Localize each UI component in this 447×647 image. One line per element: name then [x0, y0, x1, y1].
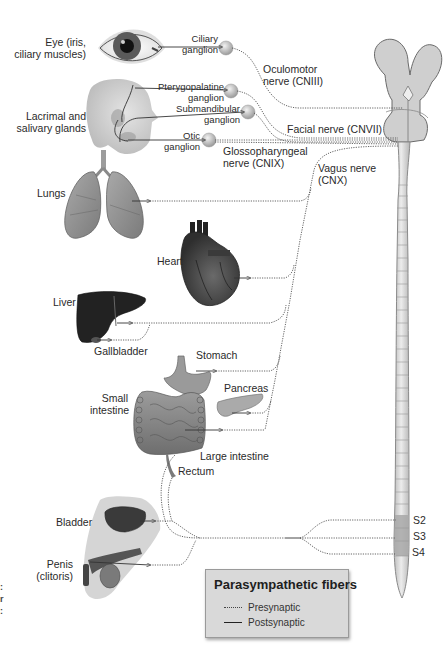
label-ciliary-line2: ganglion	[170, 44, 218, 55]
label-segment-s2: S2	[413, 514, 426, 526]
legend-item-postsynaptic: Postsynaptic	[224, 617, 305, 628]
ciliary-ganglion	[219, 41, 233, 55]
legend-box: Parasympathetic fibers Presynaptic Posts…	[205, 569, 349, 638]
label-vagus-nerve: Vagus nerve (CNX)	[318, 162, 376, 186]
label-oculomotor-nerve: Oculomotor nerve (CNIII)	[263, 63, 323, 87]
label-gallbladder: Gallbladder	[94, 345, 148, 357]
label-submandibular-line1: Submandibular	[170, 103, 240, 114]
label-penis-line2: (clitoris)	[28, 570, 73, 582]
label-pterygopalatine-ganglion: Pterygopalatine ganglion	[150, 81, 224, 103]
pelvis-illustration	[83, 496, 160, 599]
label-oculomotor-line1: Oculomotor	[263, 63, 323, 75]
label-penis-line1: Penis	[28, 558, 73, 570]
stomach-illustration	[164, 356, 211, 395]
label-small-intestine: Small intestine	[90, 392, 128, 416]
label-bladder: Bladder	[56, 516, 92, 528]
label-stomach: Stomach	[196, 349, 237, 361]
eye-illustration	[98, 30, 165, 64]
label-glosso-line2: nerve (CNIX)	[223, 157, 308, 169]
label-glands-line2: salivary glands	[6, 122, 86, 134]
label-submandibular-ganglion: Submandibular ganglion	[170, 103, 240, 125]
label-otic-ganglion: Otic ganglion	[150, 130, 200, 152]
label-vagus-line1: Vagus nerve	[318, 162, 376, 174]
label-liver: Liver	[53, 296, 76, 308]
pterygopalatine-ganglion	[224, 84, 238, 98]
legend-label-postsynaptic: Postsynaptic	[248, 617, 305, 628]
label-eye: Eye (iris, ciliary muscles)	[8, 36, 86, 60]
label-oculomotor-line2: nerve (CNIII)	[263, 75, 323, 87]
label-ciliary-line1: Ciliary	[170, 33, 218, 44]
dotted-line-swatch-icon	[224, 607, 242, 608]
legend-label-presynaptic: Presynaptic	[248, 602, 300, 613]
spinal-cord	[394, 142, 410, 598]
label-pterygopalatine-line1: Pterygopalatine	[150, 81, 224, 92]
edge-fragment-3: :	[0, 606, 3, 616]
label-vagus-line2: (CNX)	[318, 174, 376, 186]
label-eye-line1: Eye (iris,	[8, 36, 86, 48]
label-lungs: Lungs	[37, 187, 66, 199]
head-illustration	[86, 79, 158, 154]
label-submandibular-line2: ganglion	[170, 114, 240, 125]
label-pancreas: Pancreas	[224, 382, 268, 394]
label-otic-line2: ganglion	[150, 141, 200, 152]
label-small-intestine-line1: Small	[90, 392, 128, 404]
solid-line-swatch-icon	[224, 622, 242, 623]
label-pterygopalatine-line2: ganglion	[150, 92, 224, 103]
lungs-illustration	[65, 150, 144, 238]
legend-title: Parasympathetic fibers	[214, 577, 357, 592]
label-small-intestine-line2: intestine	[90, 404, 128, 416]
label-segment-s3: S3	[413, 530, 426, 542]
label-glossopharyngeal-nerve: Glossopharyngeal nerve (CNIX)	[223, 145, 308, 169]
label-glosso-line1: Glossopharyngeal	[223, 145, 308, 157]
label-rectum: Rectum	[178, 465, 214, 477]
liver-illustration	[77, 292, 146, 343]
label-glands-line1: Lacrimal and	[6, 110, 86, 122]
edge-fragment-1: :	[0, 582, 3, 592]
label-facial-nerve: Facial nerve (CNVII)	[287, 123, 382, 135]
heart-illustration	[181, 220, 239, 306]
label-segment-s4: S4	[412, 546, 425, 558]
legend-item-presynaptic: Presynaptic	[224, 602, 300, 613]
label-large-intestine: Large intestine	[200, 450, 269, 462]
label-ciliary-ganglion: Ciliary ganglion	[170, 33, 218, 55]
brainstem	[374, 39, 441, 142]
label-heart: Heart	[157, 255, 183, 267]
edge-fragment-2: r	[0, 594, 4, 604]
label-otic-line1: Otic	[150, 130, 200, 141]
label-eye-line2: ciliary muscles)	[8, 48, 86, 60]
label-penis: Penis (clitoris)	[28, 558, 73, 582]
label-glands: Lacrimal and salivary glands	[6, 110, 86, 134]
